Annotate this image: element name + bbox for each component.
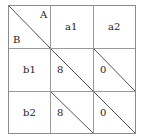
payoff-table: A B a1 a2 b1 b2 8 0 8 0	[8, 5, 136, 134]
row-header-b1: b1	[23, 65, 36, 75]
corner-label-a: A	[40, 10, 47, 20]
row-header-b2: b2	[23, 108, 36, 118]
cell-b1-a1: 8	[57, 65, 63, 75]
cell-b1-a2: 0	[100, 65, 106, 75]
cell-b2-a2: 0	[100, 108, 106, 118]
corner-label-b: B	[13, 35, 20, 45]
column-header-a1: a1	[65, 22, 77, 32]
cell-b2-a1: 8	[57, 108, 63, 118]
column-header-a2: a2	[108, 22, 120, 32]
